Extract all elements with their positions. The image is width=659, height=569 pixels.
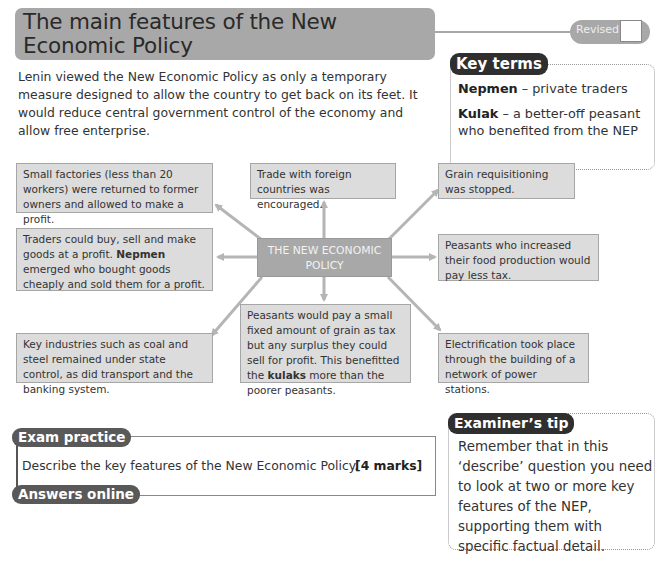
bold-term: Nepmen [116, 248, 165, 260]
examiners-tip-text: Remember that in this ‘describe’ questio… [458, 437, 653, 557]
box-peasants-fixed-tax: Peasants would pay a small fixed amount … [240, 304, 411, 383]
examiners-tip-heading: Examiner’s tip [448, 413, 574, 434]
box-trade: Trade with foreign countries was encoura… [250, 163, 396, 199]
answers-online-link[interactable]: Answers online [12, 485, 140, 504]
exam-question: Describe the key features of the New Eco… [22, 458, 358, 473]
box-traders: Traders could buy, sell and make goods a… [16, 228, 213, 291]
exam-practice-heading: Exam practice [12, 428, 131, 447]
box-small-factories: Small factories (less than 20 workers) w… [16, 163, 213, 213]
text: emerged who bought goods cheaply and sol… [23, 263, 205, 290]
box-key-industries: Key industries such as coal and steel re… [16, 333, 213, 383]
center-node: THE NEW ECONOMIC POLICY [257, 238, 392, 277]
box-electrification: Electrification took place through the b… [438, 333, 589, 383]
bold-term: kulaks [268, 369, 306, 381]
box-peasants-increased: Peasants who increased their food produc… [438, 234, 599, 281]
box-grain: Grain requisitioning was stopped. [438, 163, 575, 199]
exam-marks: [4 marks] [355, 458, 422, 473]
text: Traders could buy, sell and make goods a… [23, 233, 196, 260]
